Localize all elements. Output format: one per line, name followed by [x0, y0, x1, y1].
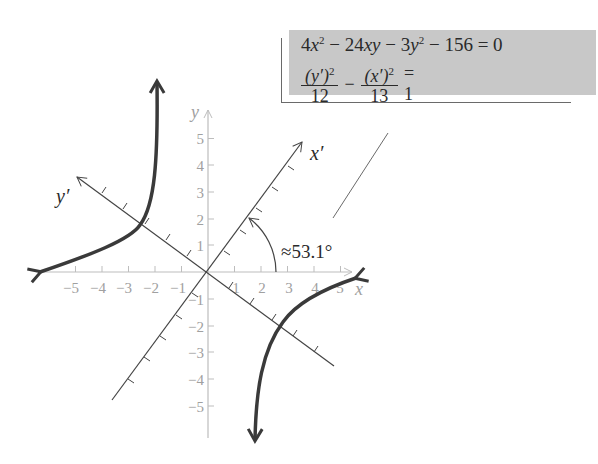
general-equation: 4x2 − 24xy − 3y2 − 156 = 0 — [301, 34, 503, 56]
x-tick-labels: −5 −4 −3 −2 −1 1 2 3 4 5 — [63, 280, 344, 296]
standard-form-equation: (y′)2 12 − (x′)2 13 = 1 — [301, 62, 420, 106]
svg-text:−1: −1 — [188, 292, 204, 308]
angle-label: ≈53.1° — [281, 241, 332, 262]
svg-text:2: 2 — [258, 280, 266, 296]
x-prime-ticks — [128, 166, 294, 383]
svg-text:3: 3 — [197, 185, 205, 201]
svg-text:5: 5 — [336, 280, 344, 296]
svg-text:−3: −3 — [188, 345, 204, 361]
svg-text:−5: −5 — [188, 399, 204, 415]
svg-text:4: 4 — [311, 280, 319, 296]
y-prime-ticks — [102, 187, 318, 352]
hyperbola-upper-left-branch — [40, 82, 157, 272]
svg-text:−4: −4 — [188, 372, 204, 388]
svg-text:3: 3 — [285, 280, 293, 296]
fraction-x-prime: (x′)2 13 — [361, 62, 398, 106]
fraction-y-prime: (y′)2 12 — [301, 62, 338, 106]
svg-text:−5: −5 — [63, 280, 79, 296]
minus-sign: − — [338, 74, 360, 95]
svg-text:−2: −2 — [143, 280, 159, 296]
svg-text:−1: −1 — [170, 280, 186, 296]
callout-leader-line — [333, 133, 388, 218]
callout-frame-left — [281, 38, 282, 103]
y-prime-label: y′ — [54, 185, 70, 208]
equals-one: = 1 — [398, 63, 420, 105]
svg-text:2: 2 — [197, 212, 205, 228]
y-axis-ticks — [208, 139, 214, 407]
y-tick-labels: 5 4 3 2 1 −1 −2 −3 −4 −5 — [188, 131, 204, 415]
y-axis-label: y — [189, 102, 199, 122]
svg-text:−2: −2 — [188, 319, 204, 335]
svg-text:−3: −3 — [116, 280, 132, 296]
x-prime-label: x′ — [309, 142, 324, 164]
svg-text:4: 4 — [197, 158, 205, 174]
hyperbola-lower-right-branch — [255, 278, 356, 440]
svg-text:−4: −4 — [90, 280, 106, 296]
svg-text:1: 1 — [232, 280, 240, 296]
y-prime-axis — [77, 177, 334, 366]
svg-text:5: 5 — [197, 131, 205, 147]
x-axis-ticks — [76, 266, 341, 272]
svg-text:1: 1 — [197, 238, 205, 254]
x-axis-label: x — [354, 279, 363, 299]
x-prime-axis — [112, 142, 302, 400]
angle-arc — [249, 218, 276, 272]
